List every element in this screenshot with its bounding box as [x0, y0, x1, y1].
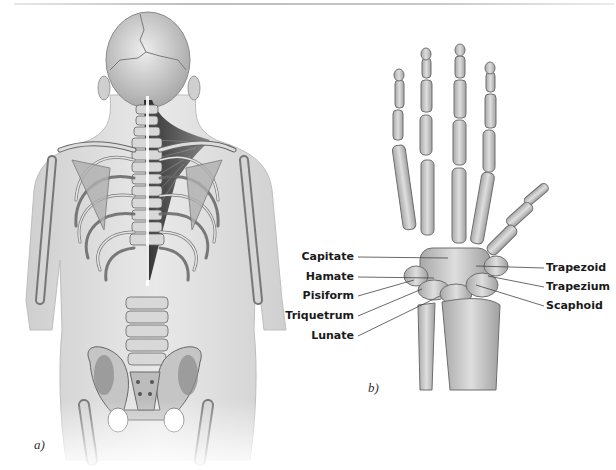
label-capitate: Capitate [301, 251, 354, 263]
label-lunate: Lunate [311, 330, 354, 342]
back-skeleton-illustration [0, 0, 300, 470]
panel-label-a: a) [34, 437, 45, 453]
hand-skeleton-illustration [300, 0, 616, 470]
label-trapezoid: Trapezoid [546, 262, 606, 274]
panel-b-hand-skeleton: Capitate Hamate Pisiform Triquetrum Luna… [300, 0, 616, 470]
panel-label-b: b) [368, 380, 379, 396]
label-scaphoid: Scaphoid [546, 300, 603, 312]
label-hamate: Hamate [306, 271, 354, 283]
label-pisiform: Pisiform [303, 290, 354, 302]
label-trapezium: Trapezium [546, 281, 610, 293]
panel-a-back-skeleton: a) [0, 0, 300, 470]
label-triquetrum: Triquetrum [285, 310, 354, 322]
